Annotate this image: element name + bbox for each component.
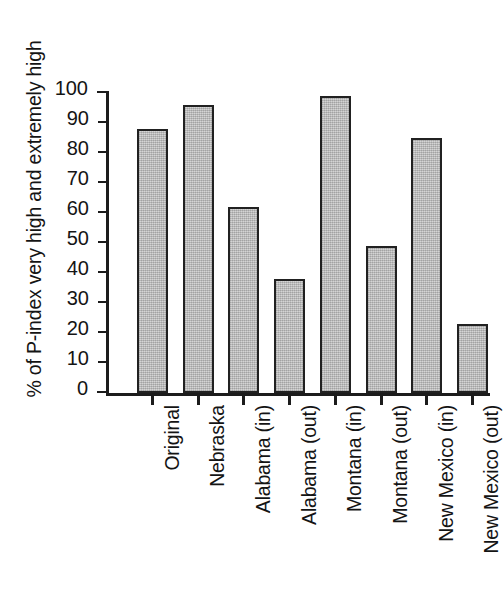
y-tick: 0	[97, 391, 106, 393]
y-tick: 60	[98, 211, 106, 213]
x-axis-line	[106, 393, 490, 396]
y-tick-label: 60	[67, 198, 89, 218]
y-tick: 40	[98, 271, 106, 273]
y-tick: 30	[98, 301, 106, 303]
bar	[274, 279, 305, 393]
x-axis-label: Alabama (out)	[298, 405, 320, 525]
plot-area: 0102030405060708090100	[106, 93, 490, 393]
x-tick	[425, 395, 428, 405]
x-axis-label: Montana (out)	[389, 405, 411, 524]
x-tick	[334, 395, 337, 405]
bar	[320, 96, 351, 393]
y-tick: 10	[98, 361, 106, 363]
y-tick: 80	[98, 151, 106, 153]
bar	[137, 129, 168, 393]
bar	[457, 324, 488, 393]
x-axis-label: Original	[161, 405, 183, 471]
y-tick: 50	[98, 241, 106, 243]
bar-chart: % of P-index very high and extremely hig…	[0, 0, 503, 604]
x-tick	[471, 395, 474, 405]
y-tick: 100	[97, 91, 106, 93]
y-tick: 70	[98, 181, 106, 183]
x-tick	[288, 395, 291, 405]
y-tick-label: 50	[67, 228, 89, 248]
y-tick-label: 90	[67, 108, 89, 128]
y-tick-label: 40	[67, 258, 89, 278]
y-tick-label: 70	[67, 168, 89, 188]
y-tick-label: 80	[67, 138, 89, 158]
y-tick: 90	[98, 121, 106, 123]
y-axis-line	[106, 91, 109, 395]
bar	[366, 246, 397, 393]
x-tick	[380, 395, 383, 405]
x-axis-label: Montana (in)	[343, 405, 365, 512]
y-tick-label: 0	[77, 378, 88, 398]
x-tick	[242, 395, 245, 405]
y-axis-title: % of P-index very high and extremely hig…	[19, 9, 49, 429]
x-axis-labels: OriginalNebraskaAlabama (in)Alabama (out…	[106, 405, 503, 604]
x-axis-label: New Mexico (in)	[435, 405, 457, 542]
y-tick-label: 30	[67, 288, 89, 308]
y-tick: 20	[98, 331, 106, 333]
x-axis-label: Alabama (in)	[252, 405, 274, 513]
y-tick-label: 20	[67, 318, 89, 338]
y-tick-label: 100	[55, 78, 88, 98]
bar	[228, 207, 259, 393]
x-tick	[197, 395, 200, 405]
bar	[183, 105, 214, 393]
x-tick	[151, 395, 154, 405]
x-axis-label: Nebraska	[206, 405, 228, 487]
x-axis-label: New Mexico (out)	[480, 405, 502, 554]
bar	[411, 138, 442, 393]
y-tick-label: 10	[67, 348, 89, 368]
